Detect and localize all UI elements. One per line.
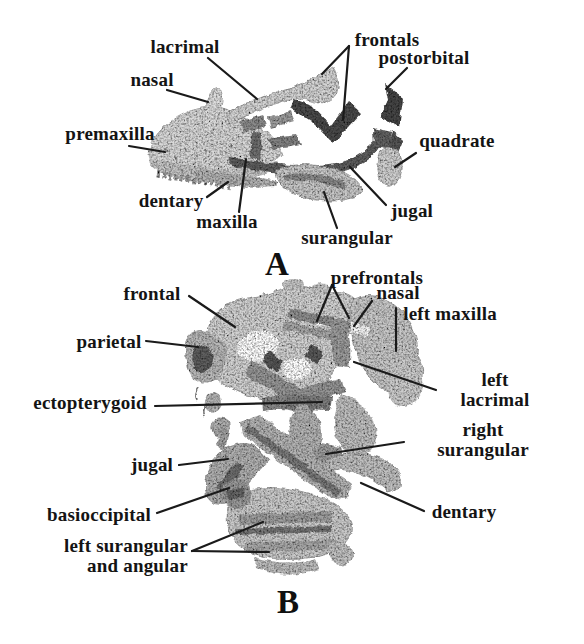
- label-jugal: jugal: [131, 455, 173, 475]
- figure-root: lacrimalnasalpremaxilladentarymaxillafro…: [0, 0, 584, 644]
- label-postorbital: postorbital: [379, 48, 470, 68]
- panel-letter-b: B: [277, 584, 299, 621]
- label-basioccipital: basioccipital: [47, 505, 151, 525]
- label-dentary: dentary: [139, 191, 204, 211]
- label-nasal: nasal: [130, 70, 173, 90]
- label-jugal: jugal: [391, 201, 433, 221]
- label-dentary: dentary: [432, 502, 497, 522]
- label-premaxilla: premaxilla: [65, 124, 154, 144]
- label-left-surangular-and-angular: left surangular and angular: [64, 536, 188, 576]
- label-maxilla: maxilla: [196, 212, 258, 232]
- labels-layer: lacrimalnasalpremaxilladentarymaxillafro…: [0, 0, 584, 644]
- label-lacrimal: lacrimal: [150, 37, 219, 57]
- label-left-maxilla: left maxilla: [403, 304, 497, 324]
- label-frontal: frontal: [124, 284, 181, 304]
- label-surangular: surangular: [301, 228, 393, 248]
- label-nasal: nasal: [376, 283, 419, 303]
- label-ectopterygoid: ectopterygoid: [33, 393, 146, 413]
- label-right-surangular: right surangular: [433, 420, 534, 460]
- label-left-lacrimal: left lacrimal: [451, 370, 540, 410]
- label-quadrate: quadrate: [419, 131, 495, 151]
- label-parietal: parietal: [77, 332, 142, 352]
- panel-letter-a: A: [265, 246, 289, 283]
